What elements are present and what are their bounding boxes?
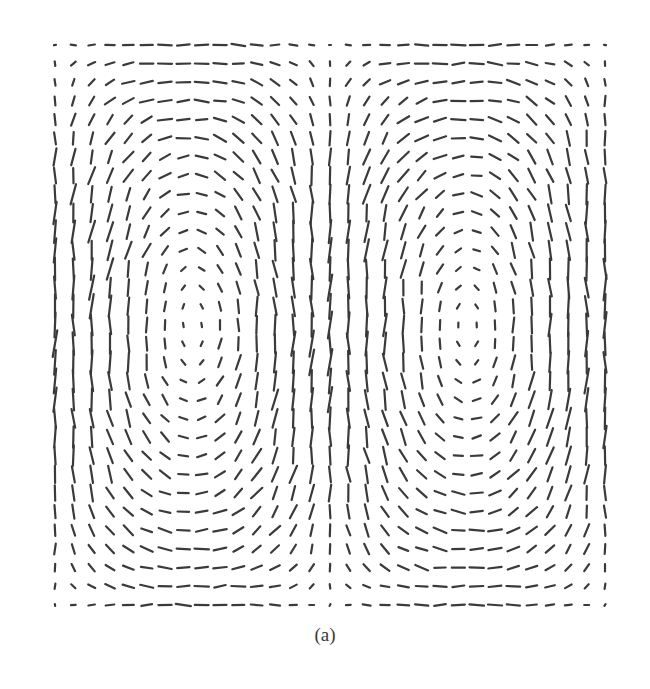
- vector-segment: [509, 508, 518, 516]
- vector-segment: [232, 566, 244, 569]
- vector-segment: [196, 511, 208, 513]
- vector-segment: [55, 525, 56, 536]
- vector-segment: [124, 525, 133, 535]
- vector-segment: [218, 358, 221, 368]
- vector-segment: [54, 447, 55, 465]
- vector-segment: [363, 604, 371, 605]
- vector-segment: [140, 100, 154, 103]
- vector-segment: [256, 392, 258, 407]
- vector-segment: [72, 96, 75, 105]
- vector-segment: [163, 265, 167, 274]
- vector-segment: [437, 264, 443, 273]
- vector-segment: [399, 507, 408, 517]
- vector-segment: [546, 81, 555, 85]
- vector-segment: [455, 230, 463, 233]
- vector-segment: [456, 286, 461, 290]
- vector-segment: [584, 564, 589, 571]
- vector-segment: [548, 204, 552, 221]
- vector-segment: [106, 526, 114, 534]
- vector-segment: [183, 304, 185, 309]
- vector-segment: [164, 357, 166, 367]
- vector-segment: [488, 62, 502, 65]
- vector-segment: [274, 371, 276, 390]
- vector-segment: [526, 585, 537, 587]
- vector-segment: [418, 226, 425, 238]
- vector-segment: [275, 240, 276, 261]
- vector-segment: [290, 565, 297, 571]
- vector-segment: [546, 115, 554, 124]
- vector-segment: [434, 81, 447, 83]
- vector-segment: [236, 355, 241, 369]
- vector-segment: [270, 565, 280, 570]
- vector-segment: [195, 549, 209, 550]
- vector-segment: [528, 150, 535, 163]
- vector-segment: [489, 44, 501, 46]
- vector-segment: [381, 525, 389, 535]
- vector-segment: [122, 81, 134, 84]
- vector-segment: [106, 507, 114, 517]
- vector-segment: [508, 154, 518, 160]
- vector-segment: [254, 168, 260, 183]
- vector-segment: [347, 96, 350, 105]
- vector-segment: [586, 257, 587, 281]
- vector-segment: [290, 62, 297, 65]
- vector-segment: [215, 172, 225, 180]
- vector-segment: [329, 428, 331, 446]
- vector-segment: [54, 544, 56, 555]
- vector-segment: [311, 149, 313, 164]
- vector-segment: [158, 45, 172, 46]
- vector-segment: [435, 491, 446, 495]
- vector-segment: [421, 373, 423, 388]
- vector-segment: [509, 170, 518, 181]
- vector-segment: [415, 44, 428, 45]
- vector-segment: [512, 375, 514, 387]
- vector-segment: [108, 205, 113, 222]
- vector-segment: [586, 447, 588, 465]
- vector-segment: [270, 526, 280, 535]
- vector-segment: [329, 467, 331, 483]
- vector-segment: [347, 544, 350, 553]
- vector-segment: [434, 510, 445, 513]
- vector-segment: [235, 489, 242, 498]
- vector-segment: [419, 208, 424, 219]
- vector-segment: [549, 185, 552, 203]
- vector-segment: [435, 452, 444, 459]
- vector-segment: [472, 418, 482, 420]
- vector-segment: [494, 301, 495, 311]
- vector-segment: [473, 435, 481, 438]
- vector-segment: [604, 79, 605, 86]
- vector-segment: [586, 409, 587, 428]
- vector-segment: [454, 174, 464, 177]
- vector-segment: [566, 466, 571, 482]
- vector-segment: [527, 546, 536, 553]
- vector-segment: [160, 154, 170, 160]
- vector-segment: [255, 280, 259, 295]
- vector-segment: [290, 98, 296, 105]
- vector-segment: [434, 118, 446, 122]
- vector-segment: [398, 565, 409, 570]
- vector-segment: [214, 510, 227, 514]
- vector-segment: [73, 445, 74, 466]
- vector-segment: [90, 132, 93, 144]
- vector-segment: [292, 149, 295, 165]
- vector-segment: [251, 586, 263, 587]
- vector-segment: [548, 390, 551, 409]
- vector-segment: [511, 355, 515, 369]
- vector-segment: [234, 189, 242, 200]
- vector-segment: [125, 430, 131, 444]
- vector-segment: [181, 360, 185, 365]
- vector-segment: [236, 244, 241, 257]
- vector-segment: [494, 283, 497, 293]
- vector-segment: [72, 525, 76, 536]
- vector-segment: [218, 339, 221, 349]
- vector-segment: [474, 268, 480, 270]
- vector-segment: [436, 414, 443, 422]
- vector-segment: [511, 393, 516, 406]
- vector-segment: [89, 545, 95, 553]
- vector-segment: [109, 316, 111, 334]
- vector-segment: [293, 258, 294, 280]
- vector-segment: [585, 97, 588, 106]
- vector-segment: [365, 524, 369, 537]
- vector-segment: [605, 525, 606, 536]
- vector-segment: [420, 244, 423, 256]
